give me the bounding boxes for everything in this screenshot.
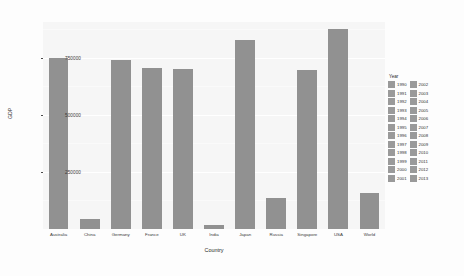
- legend-label: 2010: [419, 150, 429, 155]
- legend-item[interactable]: 1991: [388, 89, 407, 98]
- legend-swatch: [410, 90, 417, 97]
- legend-item[interactable]: 1992: [388, 98, 407, 107]
- legend-item[interactable]: 2008: [410, 132, 429, 141]
- legend-item[interactable]: 2003: [410, 89, 429, 98]
- legend-item[interactable]: 2011: [410, 157, 429, 166]
- legend-swatch: [388, 124, 395, 131]
- legend-swatch: [410, 149, 417, 156]
- x-axis-tick-label: UK: [167, 232, 198, 237]
- legend-item[interactable]: 2009: [410, 140, 429, 149]
- legend-item[interactable]: 1994: [388, 115, 407, 124]
- bar[interactable]: [360, 193, 380, 229]
- x-axis-tick-label: China: [74, 232, 105, 237]
- legend-item[interactable]: 2013: [410, 174, 429, 183]
- x-axis-tick-label: France: [136, 232, 167, 237]
- bar[interactable]: [204, 225, 224, 229]
- chart-figure: 750000 500000 250000 GDP AustraliaChinaG…: [0, 0, 464, 276]
- legend-item[interactable]: 2007: [410, 123, 429, 132]
- legend-swatch: [410, 107, 417, 114]
- legend-swatch: [410, 166, 417, 173]
- legend-label: 2005: [419, 108, 429, 113]
- legend-title: Year: [389, 74, 458, 79]
- bar[interactable]: [173, 69, 193, 229]
- x-axis-title: Country: [43, 247, 385, 253]
- legend-item[interactable]: 2000: [388, 166, 407, 175]
- bar-slot: [230, 22, 261, 229]
- legend-label: 1997: [397, 142, 407, 147]
- ytick-mark-500000: [41, 115, 43, 116]
- legend-swatch: [388, 115, 395, 122]
- x-axis-tick-label: USA: [323, 232, 354, 237]
- legend-label: 1991: [397, 91, 407, 96]
- legend-label: 1993: [397, 108, 407, 113]
- legend-swatch: [410, 98, 417, 105]
- bar-series: [43, 22, 385, 229]
- bar[interactable]: [142, 68, 162, 230]
- legend-item[interactable]: 2010: [410, 149, 429, 158]
- legend-label: 2013: [419, 176, 429, 181]
- legend-item[interactable]: 2005: [410, 106, 429, 115]
- x-axis-tick-label: Australia: [43, 232, 74, 237]
- bar-slot: [292, 22, 323, 229]
- legend-label: 2003: [419, 91, 429, 96]
- legend-item[interactable]: 1998: [388, 149, 407, 158]
- legend-item[interactable]: 2001: [388, 174, 407, 183]
- legend-swatch: [388, 149, 395, 156]
- legend-column-2: 2002200320042005200620072008200920102011…: [410, 81, 429, 183]
- x-axis-tick-label: Japan: [230, 232, 261, 237]
- legend-label: 1995: [397, 125, 407, 130]
- legend-label: 2012: [419, 167, 429, 172]
- bar[interactable]: [328, 29, 348, 229]
- legend-label: 1990: [397, 82, 407, 87]
- legend-label: 2011: [419, 159, 428, 164]
- legend-swatch: [388, 175, 395, 182]
- legend-swatch: [410, 81, 417, 88]
- bar-slot: [43, 22, 74, 229]
- legend-label: 1998: [397, 150, 407, 155]
- x-axis-tick-label: Russia: [261, 232, 292, 237]
- x-axis-tick-label: Singapore: [292, 232, 323, 237]
- legend-swatch: [388, 158, 395, 165]
- legend-item[interactable]: 2002: [410, 81, 429, 90]
- legend-item[interactable]: 1996: [388, 132, 407, 141]
- legend-swatch: [388, 132, 395, 139]
- legend-swatch: [410, 115, 417, 122]
- bar[interactable]: [80, 219, 100, 229]
- bar[interactable]: [266, 198, 286, 229]
- legend-label: 2007: [419, 125, 429, 130]
- legend-item[interactable]: 2004: [410, 98, 429, 107]
- bar[interactable]: [111, 60, 131, 229]
- legend-item[interactable]: 1999: [388, 157, 407, 166]
- bar-slot: [136, 22, 167, 229]
- legend-swatch: [388, 90, 395, 97]
- legend-swatch: [410, 175, 417, 182]
- legend-label: 2004: [419, 99, 429, 104]
- bar[interactable]: [49, 58, 69, 229]
- bar-slot: [354, 22, 385, 229]
- x-axis-tick-label: World: [354, 232, 385, 237]
- legend-swatch: [410, 124, 417, 131]
- legend-item[interactable]: 1995: [388, 123, 407, 132]
- bar[interactable]: [235, 40, 255, 229]
- legend-swatch: [388, 166, 395, 173]
- legend-item[interactable]: 1993: [388, 106, 407, 115]
- legend: Year 19901991199219931994199519961997199…: [388, 74, 458, 183]
- legend-item[interactable]: 1997: [388, 140, 407, 149]
- legend-swatch: [410, 158, 417, 165]
- legend-item[interactable]: 2006: [410, 115, 429, 124]
- legend-swatch: [388, 98, 395, 105]
- legend-label: 2008: [419, 133, 429, 138]
- legend-swatch: [388, 141, 395, 148]
- x-axis-tick-label: India: [198, 232, 229, 237]
- legend-item[interactable]: 2012: [410, 166, 429, 175]
- legend-label: 1996: [397, 133, 407, 138]
- legend-swatch: [388, 107, 395, 114]
- legend-label: 2000: [397, 167, 407, 172]
- legend-label: 1994: [397, 116, 407, 121]
- x-axis-labels: AustraliaChinaGermanyFranceUKIndiaJapanR…: [43, 232, 385, 237]
- legend-item[interactable]: 1990: [388, 81, 407, 90]
- legend-label: 2009: [419, 142, 429, 147]
- bar[interactable]: [297, 70, 317, 229]
- legend-label: 2001: [397, 176, 407, 181]
- bar-slot: [323, 22, 354, 229]
